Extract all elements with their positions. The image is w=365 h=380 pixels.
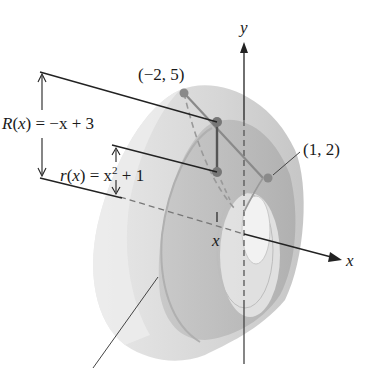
label-R: R(x) = −x + 3 [1, 114, 94, 133]
label-point-neg2-5: (−2, 5) [138, 65, 184, 84]
washer-method-diagram: R(x) = −x + 3 r(x) = x2 + 1 (−2, 5) (1, … [0, 0, 365, 380]
label-r: r(x) = x2 + 1 [60, 164, 144, 185]
label-x-tick: x [211, 231, 220, 250]
diagram-canvas: R(x) = −x + 3 r(x) = x2 + 1 (−2, 5) (1, … [0, 0, 365, 380]
point-1-2 [264, 174, 273, 183]
label-x-axis: x [345, 251, 354, 270]
x-axis-arrow-icon [328, 252, 342, 262]
y-axis-arrow-icon [240, 42, 248, 53]
label-point-1-2: (1, 2) [303, 140, 340, 159]
point-neg2-5 [180, 89, 189, 98]
label-y-axis: y [238, 18, 248, 37]
